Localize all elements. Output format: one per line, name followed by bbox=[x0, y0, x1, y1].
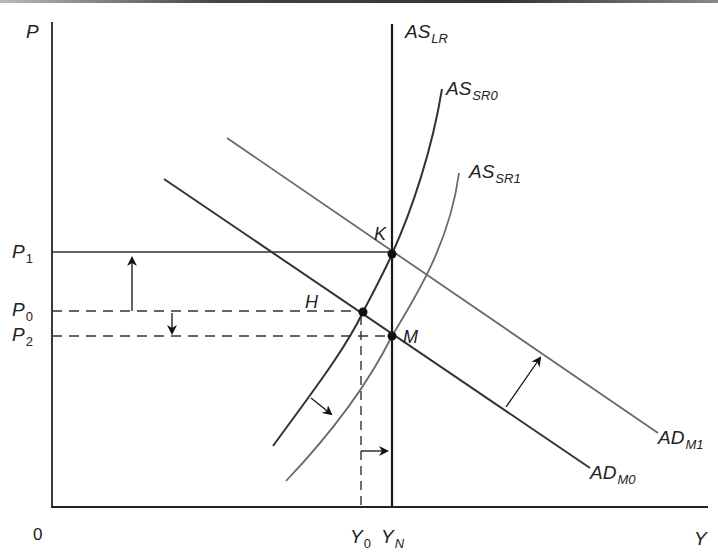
point-h-label: H bbox=[305, 292, 319, 312]
as-sr1-curve bbox=[286, 173, 459, 481]
as-sr1-label: ASSR1 bbox=[468, 161, 521, 186]
point-m-label: M bbox=[403, 327, 418, 347]
ad-m0-label: ADM0 bbox=[589, 462, 636, 487]
point-h bbox=[359, 308, 368, 317]
x-axis-label: Y bbox=[694, 528, 708, 549]
origin-label: 0 bbox=[33, 525, 42, 544]
p1-label: P1 bbox=[12, 241, 33, 266]
p2-label: P2 bbox=[12, 324, 33, 349]
ad-m1-curve bbox=[227, 138, 658, 433]
as-lr-label: ASLR bbox=[404, 21, 448, 46]
point-m bbox=[388, 332, 397, 341]
ad-m1-label: ADM1 bbox=[657, 427, 703, 452]
y0-label: Y0 bbox=[350, 526, 371, 551]
as-ad-diagram: P Y 0 P1 P0 P2 Y0 YN ASLR ASSR0 ASSR1 AD… bbox=[0, 0, 718, 556]
y-axis-label: P bbox=[26, 21, 39, 42]
as-sr0-label: ASSR0 bbox=[445, 78, 498, 103]
point-k bbox=[388, 250, 397, 259]
ad-m0-curve bbox=[164, 179, 590, 468]
p0-label: P0 bbox=[12, 299, 33, 324]
point-k-label: K bbox=[374, 224, 387, 244]
yn-label: YN bbox=[381, 526, 405, 551]
as-shift-arrow bbox=[311, 398, 331, 414]
ad-shift-arrow bbox=[506, 358, 540, 407]
